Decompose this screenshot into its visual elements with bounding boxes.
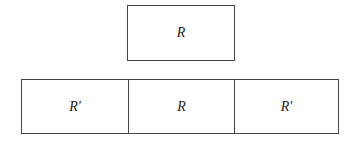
bottom-region-row: R′ R R′ [21,79,339,134]
right-reflected-region: R′ [234,80,338,133]
center-region-label: R [177,99,186,115]
left-reflected-region: R′ [22,80,128,133]
top-region-box: R [127,5,235,61]
left-region-label: R′ [69,99,81,115]
top-region-label: R [177,25,186,41]
right-region-label: R′ [281,99,293,115]
center-region: R [128,80,234,133]
